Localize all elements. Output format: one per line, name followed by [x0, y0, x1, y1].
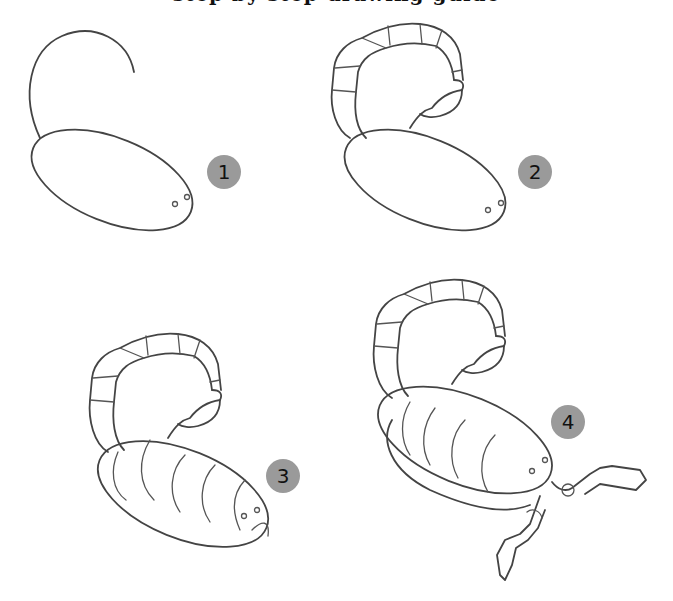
step-badge-3: 3	[266, 459, 300, 493]
step-4-drawing	[363, 280, 646, 580]
step-2-drawing	[330, 24, 519, 251]
step-1-drawing	[17, 31, 206, 251]
step-badge-4: 4	[551, 405, 585, 439]
step-badge-1: 1	[207, 155, 241, 189]
step-badge-2: 2	[518, 155, 552, 189]
scorpion-drawing-steps	[0, 0, 673, 601]
step-3-drawing	[83, 334, 283, 569]
